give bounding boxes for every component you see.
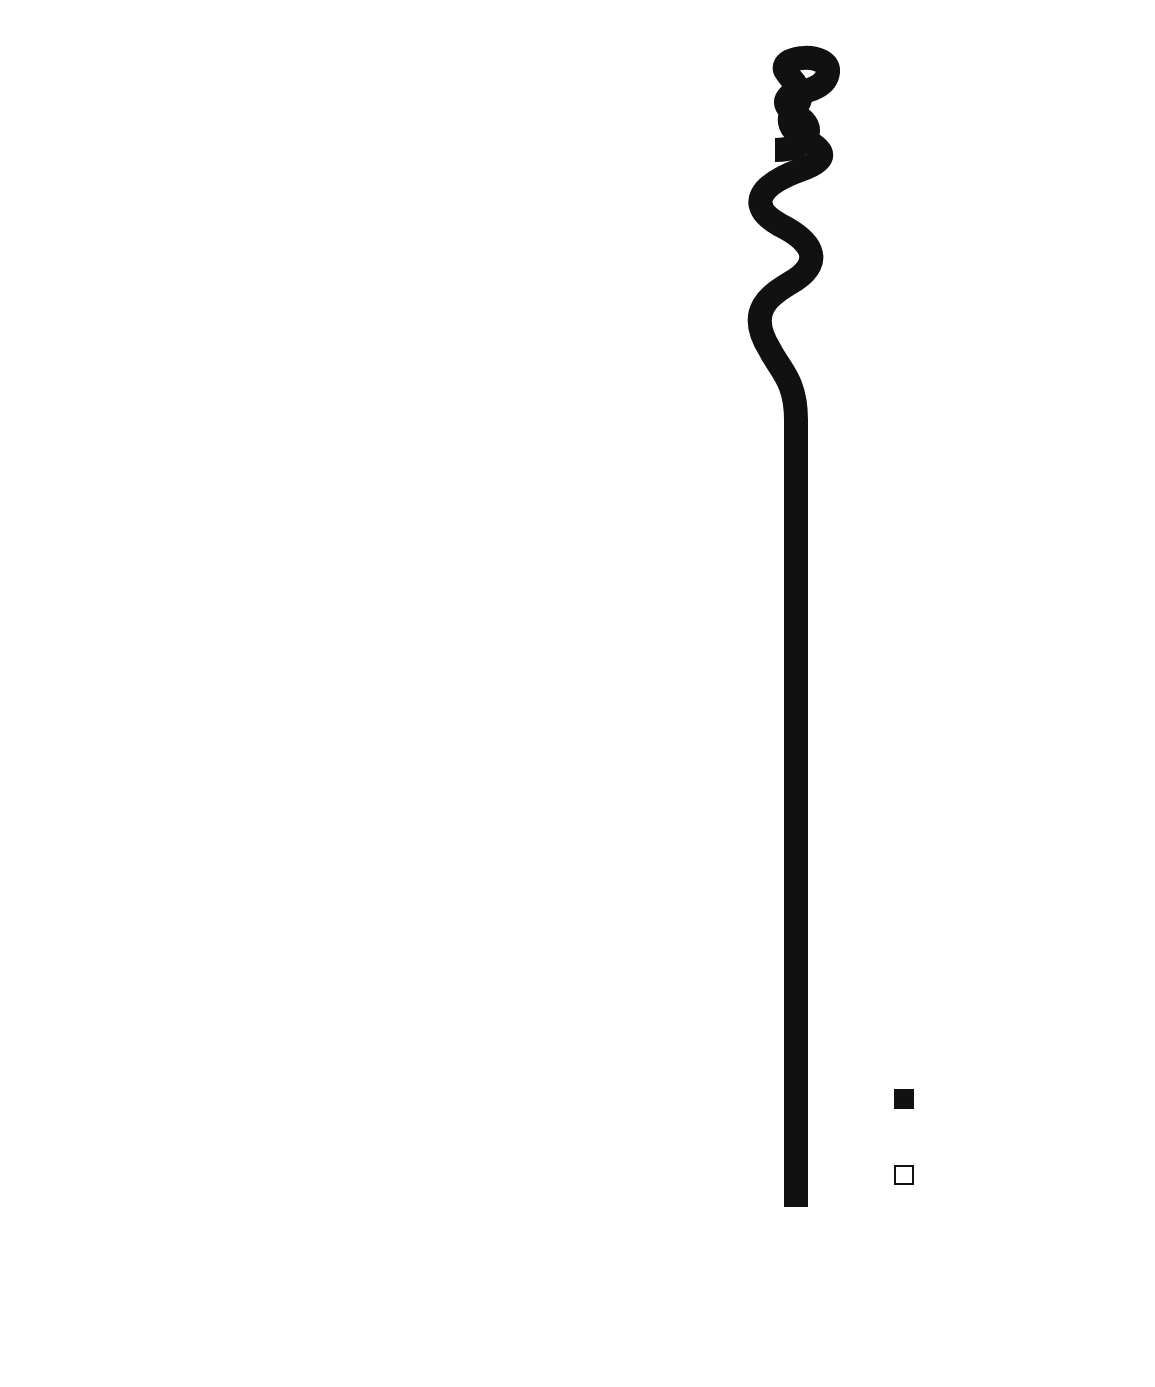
bar-chart (0, 0, 1155, 1387)
legend-men-swatch (894, 1089, 914, 1109)
legend-women-swatch (894, 1165, 914, 1185)
legend-men (890, 1088, 914, 1112)
legend-women (890, 1164, 914, 1188)
ohio-state-squiggle-bar (760, 58, 828, 1207)
